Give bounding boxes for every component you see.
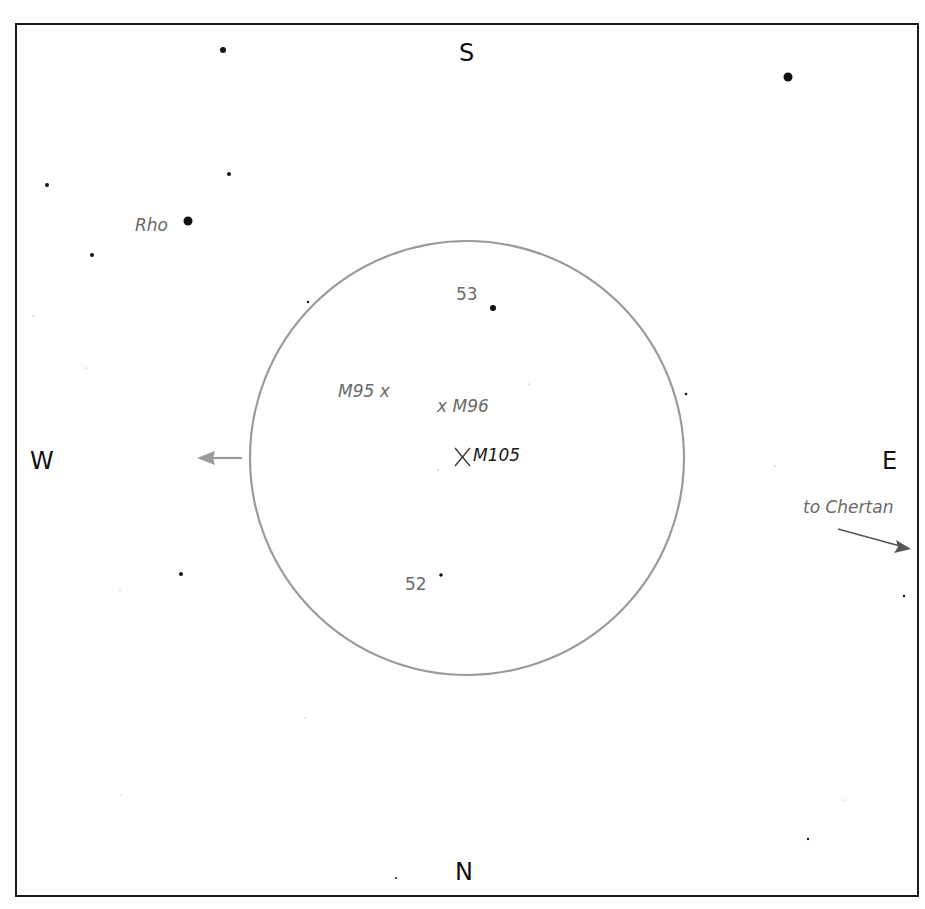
direction-north-label: N — [455, 860, 473, 884]
star-rho-label: Rho — [135, 217, 168, 234]
galaxy-m96-label: x M96 — [437, 398, 489, 415]
galaxy-m105-label: M105 — [473, 447, 520, 464]
to-chertan-annotation: to Chertan — [803, 499, 893, 516]
chart-frame — [15, 23, 919, 897]
direction-west-label: W — [30, 449, 54, 473]
star-52-label: 52 — [405, 576, 427, 593]
galaxy-m95-label: M95 x — [338, 383, 390, 400]
direction-south-label: S — [459, 41, 474, 65]
direction-east-label: E — [882, 449, 897, 473]
star-53-label: 53 — [456, 286, 478, 303]
